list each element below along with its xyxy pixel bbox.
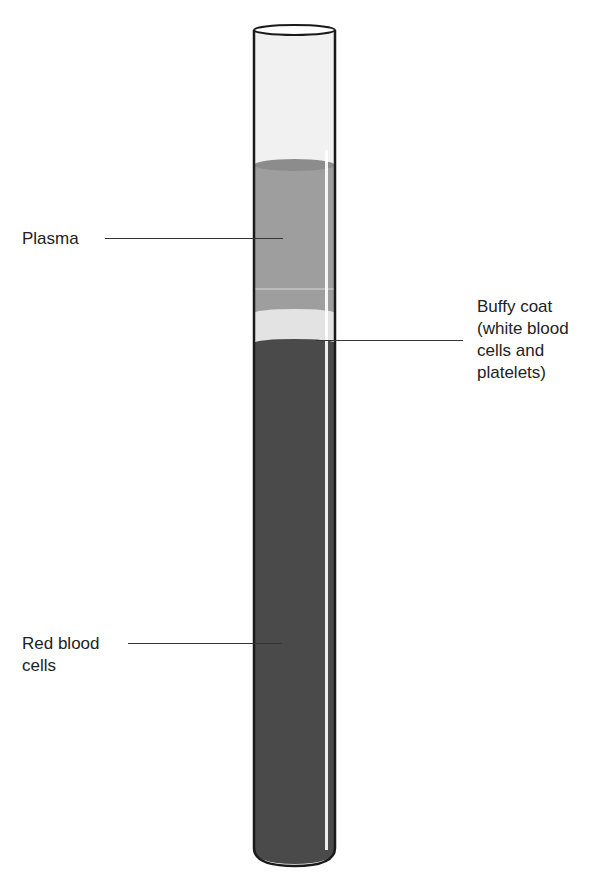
rbc-label-line: Red blood [22, 633, 100, 655]
tube-empty-region [254, 30, 335, 165]
buffy-coat-label-line: Buffy coat [477, 296, 569, 318]
buffy-coat-layer [254, 313, 335, 343]
plasma-label: Plasma [22, 228, 79, 250]
tube-rim [254, 25, 335, 35]
buffy-coat-label-line: cells and [477, 340, 569, 362]
buffy-coat-label: Buffy coat (white blood cells and platel… [477, 296, 569, 384]
red-blood-cells-leader-line [128, 643, 282, 644]
rbc-label-line: cells [22, 655, 100, 677]
plasma-layer [254, 165, 335, 313]
buffy-coat-leader-line [316, 340, 463, 341]
red-blood-cells-label: Red blood cells [22, 633, 100, 677]
buffy-coat-label-line: (white blood [477, 318, 569, 340]
test-tube-diagram [0, 0, 611, 882]
plasma-surface [254, 159, 335, 171]
red-blood-cells-layer [254, 343, 335, 864]
buffy-coat-label-line: platelets) [477, 362, 569, 384]
tube-highlight [325, 150, 328, 850]
plasma-leader-line [105, 238, 283, 239]
